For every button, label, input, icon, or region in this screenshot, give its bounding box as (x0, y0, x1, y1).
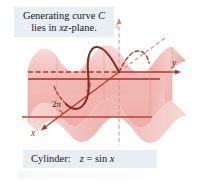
equation-z: z (80, 153, 84, 164)
page-bottom-artifact (18, 171, 168, 179)
callout-cylinder-equation: Cylinder:z = sin x (23, 150, 157, 168)
equation-x: x (110, 153, 115, 164)
figure-container: y x z π 2π Generating curve C lies in xz… (0, 0, 197, 182)
two-pi-tick-label: 2π (52, 99, 62, 109)
y-axis-label: y (171, 58, 177, 68)
callout-generating-curve: Generating curve C lies in xz-plane. (14, 7, 114, 37)
callout-top-line1-b: C (98, 10, 105, 21)
callout-top-line1-a: Generating curve (23, 10, 98, 21)
equation-sin: sin (95, 153, 107, 164)
callout-top-line2-a: lies in (31, 22, 59, 33)
pi-tick-label: π (87, 79, 92, 89)
equation-equals: = (86, 153, 92, 164)
callout-top-line2-c: -plane. (68, 22, 97, 33)
y-axis-arrowhead (175, 70, 181, 75)
cylinder-surface (28, 45, 186, 143)
callout-top-line2-b: xz (59, 22, 68, 33)
cylinder-label: Cylinder: (31, 153, 71, 164)
x-axis-label: x (30, 128, 36, 138)
z-axis-label: z (114, 20, 119, 30)
